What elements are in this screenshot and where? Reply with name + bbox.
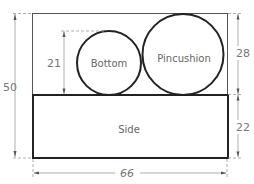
label-bottom: Bottom — [91, 58, 128, 69]
arrow-down-icon — [63, 89, 66, 95]
dimension-label-50: 50 — [3, 81, 17, 94]
dimension-label-66: 66 — [120, 167, 134, 180]
arrow-up-icon — [237, 14, 240, 20]
dimension-label-21: 21 — [47, 57, 61, 70]
dimension-label-28: 28 — [236, 47, 250, 60]
label-pincushion: Pincushion — [157, 53, 211, 64]
arrow-up-icon — [14, 14, 17, 20]
label-side: Side — [118, 124, 140, 135]
arrow-down-icon — [237, 89, 240, 95]
arrow-down-icon — [14, 151, 17, 157]
arrow-right-icon — [221, 172, 227, 175]
dimension-label-22: 22 — [236, 121, 250, 134]
arrow-up-icon — [63, 32, 66, 38]
cutting-diagram: 50 21 28 22 66 Bottom Pincushion Side — [0, 0, 254, 184]
arrow-up-icon — [237, 95, 240, 101]
arrow-down-icon — [237, 152, 240, 158]
dimension-right — [228, 14, 243, 159]
arrow-left-icon — [34, 172, 40, 175]
